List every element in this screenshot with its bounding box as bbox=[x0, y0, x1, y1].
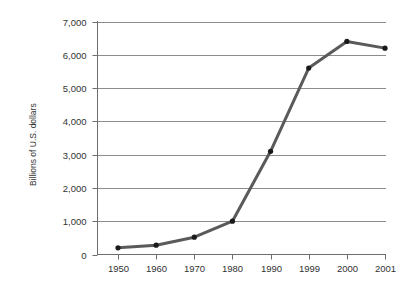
data-point-marker bbox=[230, 219, 235, 224]
data-point-marker bbox=[344, 39, 349, 44]
x-tick-label: 1950 bbox=[108, 263, 129, 274]
data-point-marker bbox=[154, 243, 159, 248]
y-tick-label: 0 bbox=[81, 250, 86, 261]
x-tick-label: 1990 bbox=[261, 263, 282, 274]
chart-container: 01,0002,0003,0004,0005,0006,0007,000 195… bbox=[0, 0, 414, 284]
y-tick-label: 2,000 bbox=[63, 183, 87, 194]
x-tick-label: 1970 bbox=[184, 263, 205, 274]
x-tick-label: 1999 bbox=[299, 263, 320, 274]
y-axis-title-group: Billions of U.S. dollars bbox=[28, 103, 38, 186]
line-chart: 01,0002,0003,0004,0005,0006,0007,000 195… bbox=[0, 0, 414, 284]
y-axis-title: Billions of U.S. dollars bbox=[28, 103, 38, 186]
y-tick-label: 5,000 bbox=[63, 83, 87, 94]
x-tick-label: 1960 bbox=[146, 263, 167, 274]
x-tick-label: 2000 bbox=[337, 263, 358, 274]
y-tick-label: 7,000 bbox=[63, 17, 87, 28]
data-point-marker bbox=[115, 245, 120, 250]
data-point-marker bbox=[306, 66, 311, 71]
data-point-marker bbox=[192, 235, 197, 240]
y-tick-label: 4,000 bbox=[63, 116, 87, 127]
x-tick-label: 2001 bbox=[375, 263, 396, 274]
y-tick-label: 1,000 bbox=[63, 216, 87, 227]
data-point-marker bbox=[382, 46, 387, 51]
y-tick-label: 3,000 bbox=[63, 150, 87, 161]
x-tick-label: 1980 bbox=[222, 263, 243, 274]
y-tick-label: 6,000 bbox=[63, 50, 87, 61]
data-point-marker bbox=[268, 149, 273, 154]
